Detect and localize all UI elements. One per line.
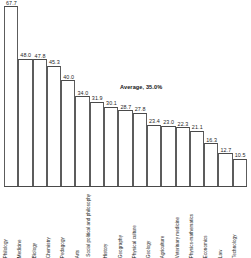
x-tick-label: Veterinary medicine: [175, 217, 180, 258]
bar-value-label: 45.3: [49, 59, 60, 65]
x-tick-label: Chemistry: [46, 237, 51, 258]
x-tick-history: History: [104, 189, 118, 258]
bar-group-medicine[interactable]: 48.0: [18, 0, 32, 187]
bar-value-label: 48.0: [20, 52, 31, 58]
bar-rect[interactable]: [47, 66, 61, 187]
bar-value-label: 10.5: [235, 152, 246, 158]
bar-value-label: 67.7: [6, 0, 17, 6]
x-tick-label: Technology: [232, 234, 237, 258]
bar-value-label: 34.0: [77, 90, 88, 96]
bar-group-geology[interactable]: 23.4: [147, 0, 161, 187]
average-annotation: Average, 35.0%: [120, 84, 162, 91]
x-tick-label: Law: [217, 249, 222, 258]
x-tick-label: Philology: [3, 239, 8, 258]
bar-value-label: 28.7: [120, 104, 131, 110]
bar-rect[interactable]: [18, 59, 32, 187]
bar-rect[interactable]: [90, 102, 104, 187]
x-axis-tick-labels: Philology Medicine Biology Chemistry Ped…: [4, 189, 247, 258]
bar-value-label: 40.0: [63, 74, 74, 80]
bar-value-label: 23.0: [163, 119, 174, 125]
bar-group-philology[interactable]: 67.7: [4, 0, 18, 187]
x-tick-label: Geography: [117, 235, 122, 258]
x-tick-veterinary-medicine: Veterinary medicine: [176, 189, 190, 258]
bar-rect[interactable]: [133, 113, 147, 187]
x-tick-label: Economics: [203, 235, 208, 258]
bar-rect[interactable]: [204, 143, 218, 187]
x-tick-economics: Economics: [204, 189, 218, 258]
bar-value-label: 30.1: [106, 100, 117, 106]
bar-rect[interactable]: [147, 125, 161, 188]
x-tick-agriculture: Agriculture: [161, 189, 175, 258]
bar-group-physical-culture[interactable]: 27.8: [133, 0, 147, 187]
bar-rect[interactable]: [118, 110, 132, 187]
x-tick-pedagogy: Pedagogy: [61, 189, 75, 258]
bar-rect[interactable]: [75, 96, 89, 187]
x-tick-geography: Geography: [118, 189, 132, 258]
bar-rect[interactable]: [104, 107, 118, 187]
bar-group-agriculture[interactable]: 23.0: [161, 0, 175, 187]
bar-value-label: 16.3: [206, 137, 217, 143]
bar-group-veterinary-medicine[interactable]: 22.3: [176, 0, 190, 187]
bar-value-label: 31.9: [92, 95, 103, 101]
bar-rect[interactable]: [218, 153, 232, 187]
x-tick-label: Physics-mathematics: [189, 214, 194, 258]
x-tick-label: Pedagogy: [60, 237, 65, 258]
bar-group-arts[interactable]: 34.0: [75, 0, 89, 187]
x-tick-label: History: [103, 243, 108, 258]
x-tick-label: Medicine: [17, 239, 22, 258]
bar-group-economics[interactable]: 16.3: [204, 0, 218, 187]
bar-rect[interactable]: [176, 127, 190, 187]
bars-container: 67.7 48.0 47.8 45.3 40.0 34.0: [4, 0, 247, 187]
bar-group-history[interactable]: 30.1: [104, 0, 118, 187]
x-tick-law: Law: [218, 189, 232, 258]
x-axis-line: [4, 186, 247, 187]
bar-value-label: 12.7: [220, 147, 231, 153]
bar-group-physics-mathematics[interactable]: 21.1: [190, 0, 204, 187]
bar-group-law[interactable]: 12.7: [218, 0, 232, 187]
bar-group-geography[interactable]: 28.7: [118, 0, 132, 187]
x-tick-medicine: Medicine: [18, 189, 32, 258]
bar-value-label: 27.8: [135, 106, 146, 112]
bar-rect[interactable]: [4, 6, 18, 187]
bar-rect[interactable]: [233, 159, 247, 187]
x-tick-label: Arts: [74, 250, 79, 258]
bar-group-pedagogy[interactable]: 40.0: [61, 0, 75, 187]
bar-group-chemistry[interactable]: 45.3: [47, 0, 61, 187]
plot-area: 67.7 48.0 47.8 45.3 40.0 34.0: [4, 0, 247, 187]
x-tick-label: Social political and philosophy: [86, 192, 91, 258]
x-tick-technology: Technology: [233, 189, 247, 258]
x-tick-label: Biology: [32, 243, 37, 258]
bar-group-biology[interactable]: 47.8: [33, 0, 47, 187]
bar-value-label: 22.3: [178, 121, 189, 127]
x-tick-label: Geology: [146, 241, 151, 258]
bar-group-social-political-and-philosophy[interactable]: 31.9: [90, 0, 104, 187]
bar-rect[interactable]: [61, 80, 75, 187]
bar-rect[interactable]: [33, 59, 47, 187]
bar-group-technology[interactable]: 10.5: [233, 0, 247, 187]
bar-rect[interactable]: [161, 126, 175, 187]
bar-value-label: 23.4: [149, 118, 160, 124]
bar-value-label: 47.8: [35, 53, 46, 59]
x-tick-biology: Biology: [33, 189, 47, 258]
bar-chart: 67.7 48.0 47.8 45.3 40.0 34.0: [0, 0, 251, 258]
bar-rect[interactable]: [190, 131, 204, 187]
bar-value-label: 21.1: [192, 124, 203, 130]
x-tick-label: Physical culture: [132, 225, 137, 258]
x-tick-label: Agriculture: [160, 235, 165, 258]
